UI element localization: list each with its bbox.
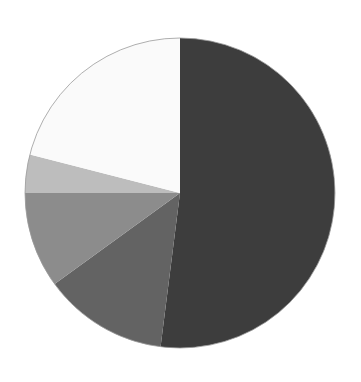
pie-chart (0, 0, 361, 382)
pie-slices (25, 38, 335, 348)
pie-slice-1 (161, 38, 335, 348)
